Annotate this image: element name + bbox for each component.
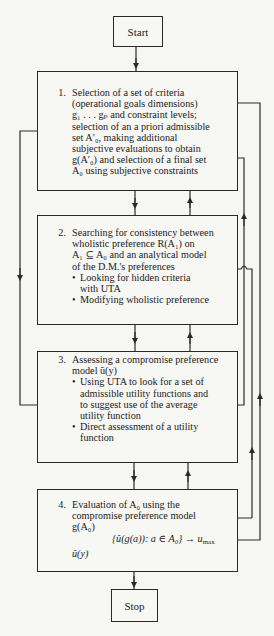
step-2-box: 2. Searching for consistency between who… [37,215,238,325]
step-text-line: û(y) [72,548,231,559]
step-bullet-list: Looking for hidden criteria with UTA Mod… [72,272,231,306]
stop-label: Stop [124,600,144,612]
bullet-text-line: with UTA [80,283,231,294]
step-text-line: of the D.M.'s preferences [72,261,231,272]
step-text-line: (operational goals dimensions) [72,98,231,109]
step-1-box: 1. Selection of a set of criteria (opera… [37,71,238,191]
step-text-line: Selection of a set of criteria [72,87,231,98]
bullet-text-line: Modifying wholistic preference [80,294,231,305]
step-number: 1. [38,87,72,177]
step-text-line: subjective evaluations to obtain [72,143,231,154]
step-text-line: Evaluation of A₀ using the [72,499,231,510]
step-text-line: g₁ . . . gₚ and constraint levels; [72,109,231,120]
formula-subscript: max [203,538,215,546]
step-number: 3. [38,354,72,444]
bullet-text-line: function [80,432,231,443]
step-bullet: Looking for hidden criteria with UTA [72,272,231,294]
step-text-line: g(A₀) [72,521,231,532]
step-text-line: model ũ(y) [72,365,231,376]
step-bullet: Using UTA to look for a set of admissibl… [72,376,231,421]
step-text-line: A₀ using subjective constraints [72,165,231,176]
step-text-line: A₁ ⊆ A₀ and an analytical model [72,249,231,260]
step-number: 4. [38,499,72,559]
formula-tail: û(y) [72,548,88,559]
step-text-line: wholistic preference R(A₁) on [72,238,231,249]
step-text-line: selection of an a priori admissible [72,121,231,132]
step-bullet: Modifying wholistic preference [72,294,231,305]
formula-text: {û(g(a)): a ∈ A₀} → u [112,533,203,544]
formula-line: {û(g(a)): a ∈ A₀} → umax [72,533,231,548]
start-node: Start [113,16,163,47]
bullet-text-line: to suggest use of the average [80,399,231,410]
bullet-text-line: utility function [80,410,231,421]
step-text-line: compromise preference model [72,510,231,521]
step-number: 2. [38,227,72,305]
step-4-box: 4. Evaluation of A₀ using the compromise… [37,489,238,572]
step-text-line: Assessing a compromise preference [72,354,231,365]
bullet-text-line: Using UTA to look for a set of [80,376,231,387]
stop-node: Stop [111,589,158,622]
start-label: Start [128,26,149,38]
step-text-line: Searching for consistency between [72,227,231,238]
step-text-line: set A′₀, making additional [72,132,231,143]
step-text-line: g(A′₀) and selection of a final set [72,154,231,165]
bullet-text-line: admissible utility functions and [80,388,231,399]
step-bullet: Direct assessment of a utility function [72,421,231,443]
step-3-box: 3. Assessing a compromise preference mod… [37,351,238,463]
bullet-text-line: Looking for hidden criteria [80,272,231,283]
step-bullet-list: Using UTA to look for a set of admissibl… [72,376,231,443]
bullet-text-line: Direct assessment of a utility [80,421,231,432]
